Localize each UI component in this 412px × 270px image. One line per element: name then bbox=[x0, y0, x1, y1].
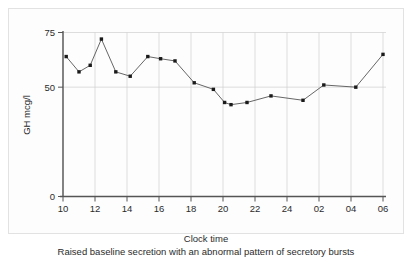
data-point-marker bbox=[381, 53, 384, 56]
data-point-marker bbox=[301, 99, 304, 102]
y-axis-tick-label: 75 bbox=[44, 27, 55, 38]
data-point-marker bbox=[146, 55, 149, 58]
data-point-marker bbox=[89, 64, 92, 67]
data-point-marker bbox=[129, 75, 132, 78]
data-point-marker bbox=[65, 55, 68, 58]
x-axis-tick-label: 22 bbox=[250, 203, 261, 214]
data-point-marker bbox=[77, 70, 80, 73]
data-point-marker bbox=[193, 81, 196, 84]
y-axis-title: GH mcg/l bbox=[21, 95, 32, 135]
x-axis-tick-label: 14 bbox=[122, 203, 133, 214]
y-tick-group: 05075 bbox=[44, 27, 63, 202]
data-point-marker bbox=[212, 88, 215, 91]
y-axis-tick-label: 50 bbox=[44, 82, 55, 93]
gridlines-group bbox=[63, 33, 386, 197]
growth-hormone-line-chart: 05075 1012141618202224020406 GH mcg/l bbox=[0, 0, 412, 270]
x-axis-tick-label: 16 bbox=[154, 203, 165, 214]
series-line bbox=[66, 39, 383, 105]
x-axis-tick-label: 02 bbox=[314, 203, 325, 214]
data-point-marker bbox=[114, 70, 117, 73]
x-axis-tick-label: 12 bbox=[90, 203, 101, 214]
data-point-marker bbox=[229, 103, 232, 106]
data-point-marker bbox=[173, 59, 176, 62]
x-axis-tick-label: 06 bbox=[378, 203, 389, 214]
figure-container: 05075 1012141618202224020406 GH mcg/l Cl… bbox=[0, 0, 412, 270]
data-point-marker bbox=[354, 85, 357, 88]
data-point-marker bbox=[223, 101, 226, 104]
caption-block: Clock time Raised baseline secretion wit… bbox=[0, 232, 412, 259]
data-point-marker bbox=[245, 101, 248, 104]
data-point-marker bbox=[269, 94, 272, 97]
x-axis-title: Clock time bbox=[0, 232, 412, 245]
x-axis-tick-label: 10 bbox=[58, 203, 69, 214]
data-series-group bbox=[65, 37, 385, 106]
data-point-marker bbox=[100, 37, 103, 40]
y-axis-title-group: GH mcg/l bbox=[21, 95, 32, 135]
x-axis-tick-label: 20 bbox=[218, 203, 229, 214]
x-axis-tick-label: 18 bbox=[186, 203, 197, 214]
y-axis-tick-label: 0 bbox=[50, 191, 55, 202]
data-point-marker bbox=[322, 83, 325, 86]
figure-caption: Raised baseline secretion with an abnorm… bbox=[0, 245, 412, 259]
x-axis-tick-label: 04 bbox=[346, 203, 357, 214]
series-markers bbox=[65, 37, 385, 106]
x-tick-group: 1012141618202224020406 bbox=[58, 197, 389, 215]
x-axis-tick-label: 24 bbox=[282, 203, 293, 214]
data-point-marker bbox=[159, 57, 162, 60]
